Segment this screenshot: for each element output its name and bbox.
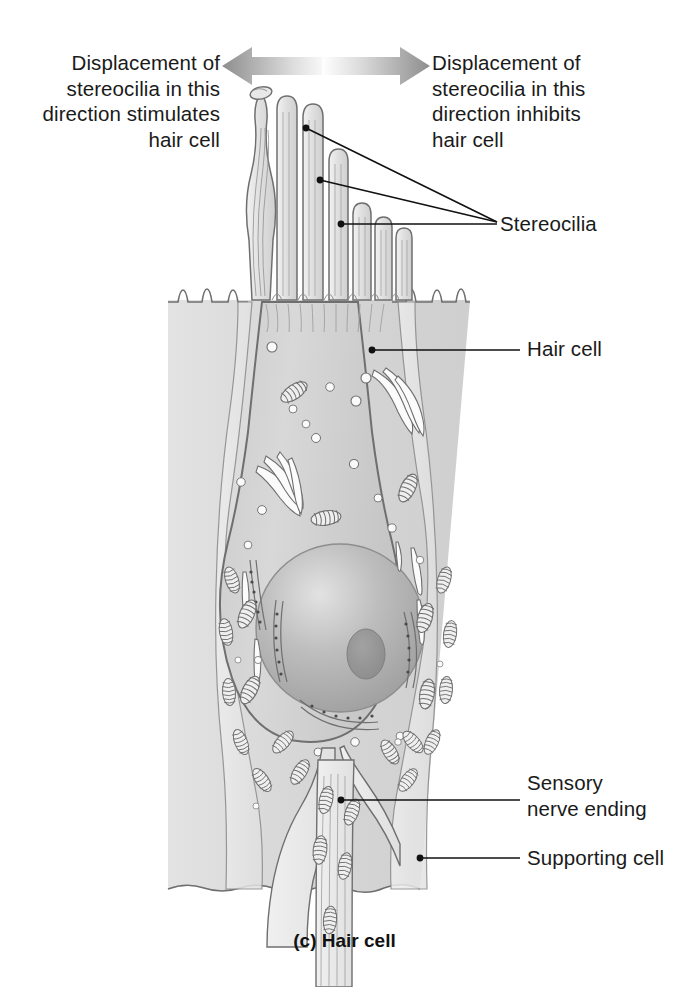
kinocilium [246,93,275,300]
label-supporting-cell: Supporting cell [527,845,664,871]
leader-dot-stereocilium-3 [338,221,345,228]
displacement-arrow [222,47,430,85]
leader-dot-stereocilium-1 [303,125,310,132]
label-hair-cell: Hair cell [527,336,602,362]
label-stereocilia: Stereocilia [500,211,597,237]
nucleolus [347,629,385,679]
figure-canvas: Displacement of stereocilia in this dire… [0,0,689,987]
leader-dot-sensory-nerve [338,797,345,804]
arrow-head-right [322,47,430,85]
stereocilium-1 [277,96,297,300]
arrow-head-left [222,47,330,85]
note-stimulates: Displacement of stereocilia in this dire… [20,50,220,152]
stereocilium-5 [375,217,392,300]
stereocilium-2 [303,104,323,300]
stereocilia-bundle [246,85,412,300]
leader-dot-supporting-cell [417,855,424,862]
leader-dot-stereocilium-2 [317,177,324,184]
stereocilium-4 [353,203,371,300]
note-inhibits: Displacement of stereocilia in this dire… [432,50,642,152]
stereocilium-6 [396,228,412,300]
label-sensory-nerve-ending: Sensory nerve ending [527,770,647,821]
kinocilium-tip-cross-section [249,85,273,101]
figure-caption: (c) Hair cell [0,930,689,952]
leader-dot-hair-cell [369,347,376,354]
